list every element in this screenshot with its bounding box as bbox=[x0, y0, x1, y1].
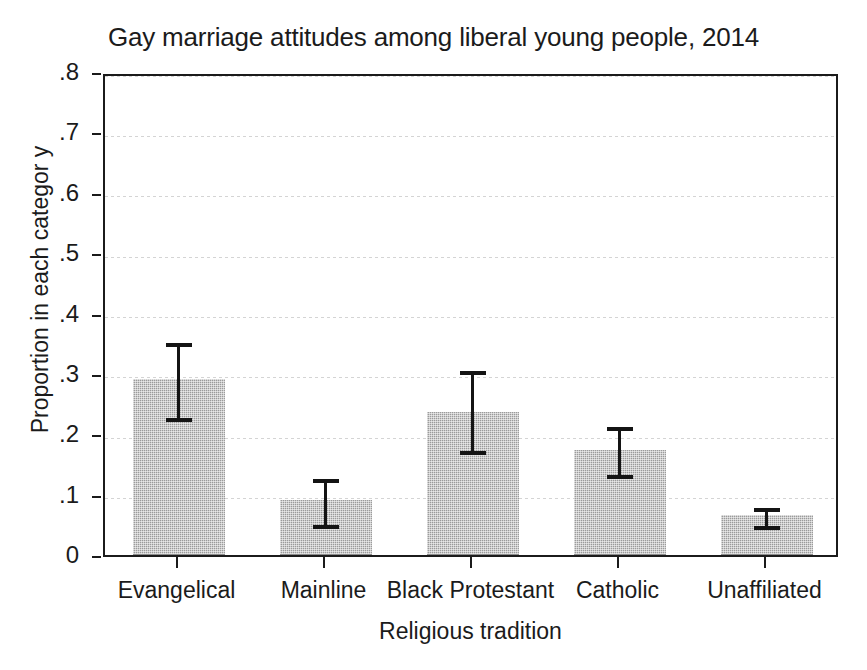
y-tick-mark bbox=[92, 194, 101, 196]
gridline bbox=[105, 257, 836, 258]
x-tick-label: Black Protestant bbox=[387, 577, 554, 604]
x-axis-title: Religious tradition bbox=[103, 618, 838, 645]
error-bar-cap-upper bbox=[607, 427, 633, 431]
y-tick-mark bbox=[92, 435, 101, 437]
error-bar-cap-lower bbox=[607, 475, 633, 479]
chart-figure: Gay marriage attitudes among liberal you… bbox=[0, 0, 867, 670]
x-tick-mark bbox=[176, 557, 178, 568]
plot-area bbox=[103, 74, 838, 557]
error-bar-cap-upper bbox=[754, 508, 780, 512]
x-tick-label: Mainline bbox=[281, 577, 367, 604]
gridline bbox=[105, 76, 836, 77]
gridline bbox=[105, 196, 836, 197]
error-bar-stem bbox=[177, 345, 180, 420]
x-tick-mark bbox=[617, 557, 619, 568]
y-tick-mark bbox=[92, 556, 101, 558]
error-bar-cap-upper bbox=[166, 343, 192, 347]
error-bar-cap-upper bbox=[460, 371, 486, 375]
gridline bbox=[105, 136, 836, 137]
error-bar-stem bbox=[471, 373, 474, 453]
x-tick-label: Catholic bbox=[576, 577, 659, 604]
error-bar-stem bbox=[618, 429, 621, 477]
error-bar-cap-upper bbox=[313, 479, 339, 483]
gridline bbox=[105, 317, 836, 318]
x-tick-label: Evangelical bbox=[118, 577, 236, 604]
y-tick-mark bbox=[92, 496, 101, 498]
error-bar-cap-lower bbox=[166, 418, 192, 422]
x-tick-mark bbox=[323, 557, 325, 568]
error-bar-cap-lower bbox=[754, 526, 780, 530]
y-tick-mark bbox=[92, 254, 101, 256]
error-bar-stem bbox=[324, 481, 327, 527]
y-axis-title: Proportion in each categor y bbox=[27, 70, 54, 510]
x-tick-label: Unaffiliated bbox=[707, 577, 822, 604]
y-tick-mark bbox=[92, 315, 101, 317]
error-bar-cap-lower bbox=[313, 525, 339, 529]
y-tick-mark bbox=[92, 375, 101, 377]
y-tick-label: 0 bbox=[15, 541, 79, 569]
x-tick-mark bbox=[470, 557, 472, 568]
chart-title: Gay marriage attitudes among liberal you… bbox=[0, 22, 867, 53]
y-tick-mark bbox=[92, 73, 101, 75]
y-tick-mark bbox=[92, 133, 101, 135]
error-bar-cap-lower bbox=[460, 451, 486, 455]
x-tick-mark bbox=[764, 557, 766, 568]
